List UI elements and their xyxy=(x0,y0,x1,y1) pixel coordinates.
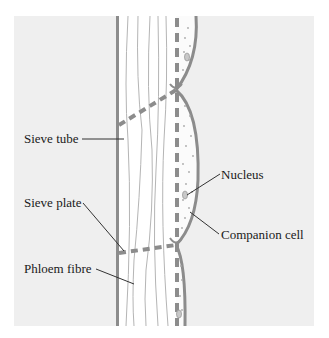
nucleus-middle xyxy=(183,191,188,199)
label-nucleus: Nucleus xyxy=(221,168,264,181)
nucleus-lower xyxy=(177,310,182,318)
sieve-tube-left-wall xyxy=(116,16,119,326)
leader-companion-cell xyxy=(190,212,219,234)
label-sieve-tube: Sieve tube xyxy=(24,132,79,145)
label-companion-cell: Companion cell xyxy=(221,228,304,241)
label-phloem-fibre: Phloem fibre xyxy=(24,262,92,275)
nucleus-upper xyxy=(185,53,190,61)
companion-cell-middle xyxy=(176,90,198,245)
phloem-diagram xyxy=(0,0,329,338)
label-sieve-plate: Sieve plate xyxy=(24,196,81,209)
